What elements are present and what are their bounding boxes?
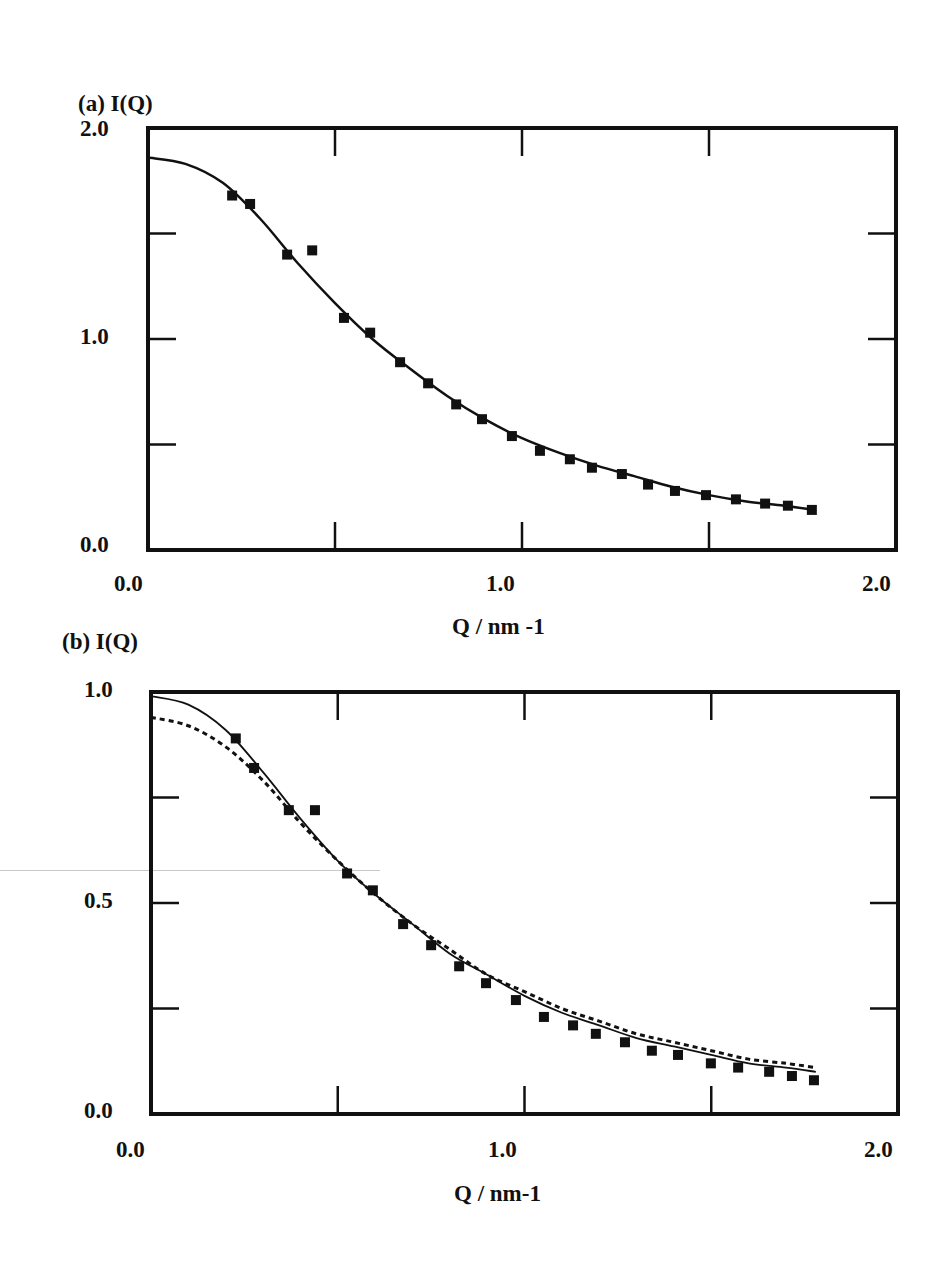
fit-curve-solid bbox=[151, 696, 816, 1072]
panel-b-plot bbox=[151, 692, 898, 1114]
data-point-square-icon bbox=[511, 995, 521, 1005]
data-point-square-icon bbox=[733, 1063, 743, 1073]
data-point-square-icon bbox=[647, 1046, 657, 1056]
data-point-square-icon bbox=[481, 978, 491, 988]
data-point-square-icon bbox=[310, 805, 320, 815]
data-point-square-icon bbox=[787, 1071, 797, 1081]
data-point-square-icon bbox=[620, 1037, 630, 1047]
plot-canvas bbox=[0, 0, 946, 1269]
data-point-square-icon bbox=[231, 733, 241, 743]
data-point-square-icon bbox=[307, 245, 317, 255]
data-point-square-icon bbox=[809, 1075, 819, 1085]
panel-a-plot bbox=[148, 128, 896, 550]
data-point-square-icon bbox=[568, 1020, 578, 1030]
data-point-square-icon bbox=[706, 1058, 716, 1068]
data-point-square-icon bbox=[673, 1050, 683, 1060]
figure: (a) I(Q) 2.0 1.0 0.0 0.0 1.0 2.0 Q / nm … bbox=[0, 0, 946, 1269]
plot-frame bbox=[148, 128, 896, 550]
plot-frame bbox=[151, 692, 898, 1114]
data-point-square-icon bbox=[454, 961, 464, 971]
data-point-square-icon bbox=[764, 1067, 774, 1077]
data-point-square-icon bbox=[591, 1029, 601, 1039]
fit-curve-solid bbox=[148, 158, 814, 510]
data-point-square-icon bbox=[539, 1012, 549, 1022]
